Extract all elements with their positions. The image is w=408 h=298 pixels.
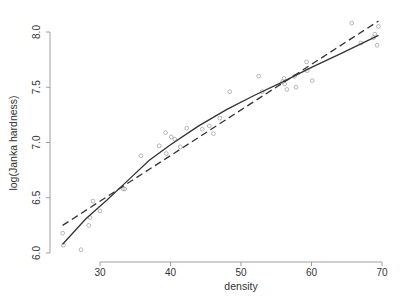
data-point: [178, 145, 182, 149]
x-tick-label: 50: [235, 267, 247, 278]
y-tick-label: 7.5: [31, 80, 42, 94]
y-tick-label: 6.0: [31, 246, 42, 260]
x-tick-label: 30: [94, 267, 106, 278]
y-tick-label: 8.0: [31, 25, 42, 39]
data-point: [310, 79, 314, 83]
data-point: [169, 135, 173, 139]
data-point: [350, 21, 354, 25]
x-axis-title: density: [224, 280, 258, 292]
data-point: [164, 131, 168, 135]
data-point: [79, 248, 83, 252]
linear-fit-line: [63, 21, 379, 225]
y-tick-label: 6.5: [31, 190, 42, 204]
data-point: [164, 152, 168, 156]
data-point: [375, 43, 379, 47]
data-point: [294, 85, 298, 89]
data-point: [87, 223, 91, 227]
data-point: [305, 60, 309, 64]
data-point: [282, 77, 286, 81]
data-point: [228, 90, 232, 94]
x-axis: 3040506070: [94, 262, 388, 278]
data-point: [61, 231, 65, 235]
y-tick-label: 7.0: [31, 135, 42, 149]
data-point: [200, 127, 204, 131]
data-point: [285, 88, 289, 92]
plot-area: [61, 21, 381, 252]
data-point: [91, 199, 95, 203]
data-point: [257, 74, 261, 78]
data-point: [157, 144, 161, 148]
data-point: [98, 209, 102, 213]
y-axis-title: log(Janka hardness): [7, 95, 19, 190]
data-point: [373, 32, 377, 36]
x-tick-label: 60: [306, 267, 318, 278]
chart: 6.06.57.07.58.0 3040506070 density log(J…: [0, 0, 408, 298]
smooth-fit-line: [63, 35, 379, 244]
data-point: [212, 132, 216, 136]
x-tick-label: 70: [376, 267, 388, 278]
y-axis: 6.06.57.07.58.0: [31, 25, 50, 260]
data-point: [283, 82, 287, 86]
x-tick-label: 40: [165, 267, 177, 278]
data-point: [218, 116, 222, 120]
data-point: [139, 154, 143, 158]
data-point: [377, 25, 381, 29]
data-point: [207, 124, 211, 128]
data-point: [185, 126, 189, 130]
